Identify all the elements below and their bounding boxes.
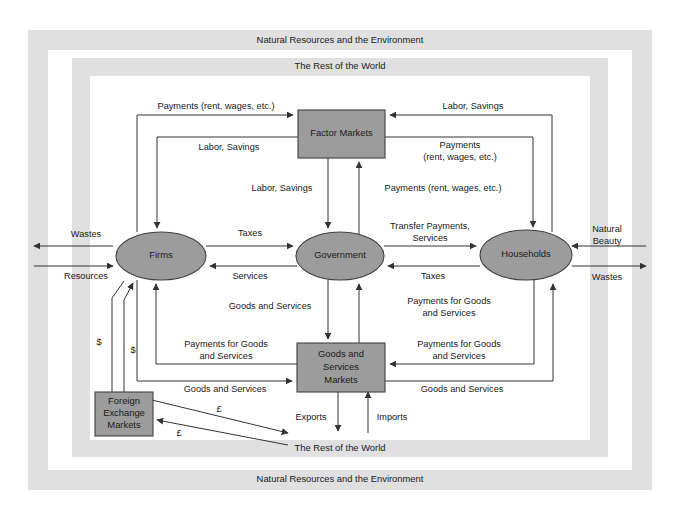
goods-markets-label-line3: Markets — [324, 374, 358, 385]
label-pound-1: £ — [216, 404, 221, 414]
fx-markets-label-line1: Foreign — [108, 395, 140, 406]
label-payments-goods-center-line2: and Services — [422, 308, 476, 318]
label-payments-center: Payments (rent, wages, etc.) — [385, 183, 502, 193]
factor-markets-label: Factor Markets — [310, 127, 373, 138]
label-payments-goods-right-line1: Payments for Goods — [417, 339, 501, 349]
label-labor-savings-right: Labor, Savings — [443, 101, 504, 111]
world-bottom-label: The Rest of the World — [294, 442, 385, 453]
node-factor-markets[interactable]: Factor Markets — [298, 110, 385, 158]
label-payments-right-line1: Payments — [440, 140, 481, 150]
label-payments-goods-left-line1: Payments for Goods — [184, 339, 268, 349]
label-pound-2: £ — [176, 428, 181, 438]
label-dollar-1: $ — [96, 337, 101, 347]
goods-markets-label-line1: Goods and — [318, 348, 364, 359]
label-taxes-right: Taxes — [421, 271, 445, 281]
label-natural-beauty-line1: Natural — [592, 224, 622, 234]
firms-label: Firms — [149, 249, 173, 260]
label-wastes-left: Wastes — [71, 229, 102, 239]
diagram-canvas: Natural Resources and the Environment Na… — [0, 0, 681, 509]
label-services-left: Services — [232, 271, 268, 281]
label-payments-right-line2: (rent, wages, etc.) — [423, 152, 497, 162]
node-goods-services-markets[interactable]: Goods and Services Markets — [297, 343, 385, 392]
label-goods-services-center: Goods and Services — [229, 301, 312, 311]
label-resources-left: Resources — [64, 271, 108, 281]
environment-top-label: Natural Resources and the Environment — [257, 34, 424, 45]
label-goods-services-lower-right: Goods and Services — [421, 384, 504, 394]
node-firms[interactable]: Firms — [116, 232, 206, 280]
label-exports: Exports — [295, 412, 327, 422]
label-taxes-left: Taxes — [238, 228, 262, 238]
fx-markets-label-line2: Exchange — [103, 407, 145, 418]
label-payments-goods-center-line1: Payments for Goods — [407, 296, 491, 306]
label-natural-beauty-line2: Beauty — [593, 236, 622, 246]
label-transfer-line1: Transfer Payments, — [390, 221, 470, 231]
label-transfer-line2: Services — [412, 233, 448, 243]
goods-markets-label-line2: Services — [323, 361, 359, 372]
node-households[interactable]: Households — [480, 230, 572, 280]
households-label: Households — [501, 248, 551, 259]
label-payments-goods-right-line2: and Services — [432, 351, 486, 361]
label-payments-rent-wages-left: Payments (rent, wages, etc.) — [158, 101, 275, 111]
label-wastes-right: Wastes — [592, 272, 623, 282]
label-labor-savings-left: Labor, Savings — [199, 142, 260, 152]
label-goods-services-lower-left: Goods and Services — [184, 384, 267, 394]
label-dollar-2: $ — [130, 345, 135, 355]
label-imports: Imports — [377, 412, 408, 422]
label-payments-goods-left-line2: and Services — [199, 351, 253, 361]
environment-bottom-label: Natural Resources and the Environment — [257, 473, 424, 484]
circular-flow-diagram: Natural Resources and the Environment Na… — [0, 0, 681, 509]
label-labor-savings-center: Labor, Savings — [252, 183, 313, 193]
world-top-label: The Rest of the World — [294, 60, 385, 71]
node-government[interactable]: Government — [296, 232, 384, 280]
government-label: Government — [314, 249, 366, 260]
node-foreign-exchange-markets[interactable]: Foreign Exchange Markets — [95, 392, 153, 436]
fx-markets-label-line3: Markets — [107, 419, 141, 430]
